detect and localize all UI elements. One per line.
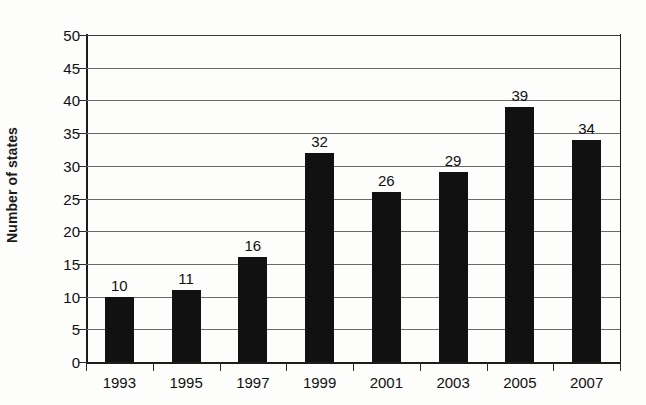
y-axis-tick-label: 0 xyxy=(30,355,80,370)
x-axis-tick-label: 1993 xyxy=(85,374,153,391)
bar-value-label: 11 xyxy=(156,271,216,286)
y-axis-tick-label: 10 xyxy=(30,289,80,304)
bar xyxy=(572,140,601,362)
gridline xyxy=(86,264,620,265)
y-axis-tick-label: 30 xyxy=(30,158,80,173)
y-axis-tick-label: 5 xyxy=(30,322,80,337)
x-axis-tick-mark xyxy=(153,362,154,371)
bar xyxy=(439,172,468,362)
y-axis-tick-mark xyxy=(78,68,86,69)
x-axis-tick-mark xyxy=(353,362,354,371)
x-axis-tick-label: 1995 xyxy=(152,374,220,391)
gridline xyxy=(86,133,620,134)
x-axis-tick-mark xyxy=(220,362,221,371)
gridline xyxy=(86,231,620,232)
y-axis-tick-label: 35 xyxy=(30,126,80,141)
y-axis-tick-mark xyxy=(78,100,86,101)
x-axis-tick-mark xyxy=(286,362,287,371)
x-axis-tick-label: 2001 xyxy=(352,374,420,391)
gridline xyxy=(86,199,620,200)
y-axis-title: Number of states xyxy=(0,0,24,370)
x-axis-tick-mark xyxy=(487,362,488,371)
y-axis-tick-mark xyxy=(78,297,86,298)
bar xyxy=(505,107,534,362)
bar-value-label: 34 xyxy=(557,121,617,136)
gridline xyxy=(86,329,620,330)
y-axis-tick-label: 15 xyxy=(30,256,80,271)
y-axis-tick-label: 50 xyxy=(30,28,80,43)
x-axis-tick-mark xyxy=(86,362,87,371)
y-axis-tick-label: 45 xyxy=(30,60,80,75)
bar xyxy=(238,257,267,362)
x-axis-tick-mark xyxy=(553,362,554,371)
y-axis-tick-mark xyxy=(78,35,86,36)
bar-value-label: 32 xyxy=(290,134,350,149)
gridline xyxy=(86,166,620,167)
right-axis-line xyxy=(620,34,621,364)
y-axis-tick-mark xyxy=(78,362,86,363)
bar xyxy=(372,192,401,362)
bar xyxy=(105,297,134,362)
x-axis-tick-label: 2005 xyxy=(486,374,554,391)
y-axis-tick-mark xyxy=(78,329,86,330)
bar-value-label: 10 xyxy=(89,278,149,293)
x-axis-tick-mark xyxy=(420,362,421,371)
bar-value-label: 16 xyxy=(223,238,283,253)
x-axis-tick-label: 1999 xyxy=(286,374,354,391)
bar-value-label: 29 xyxy=(423,153,483,168)
y-axis-tick-label: 25 xyxy=(30,191,80,206)
bar-value-label: 26 xyxy=(356,173,416,188)
y-axis-tick-mark xyxy=(78,199,86,200)
y-axis-title-label: Number of states xyxy=(4,127,20,243)
x-axis-tick-label: 1997 xyxy=(219,374,287,391)
bar xyxy=(172,290,201,362)
y-axis-tick-label: 40 xyxy=(30,93,80,108)
gridline xyxy=(86,35,620,36)
y-axis-tick-mark xyxy=(78,133,86,134)
x-axis-tick-label: 2003 xyxy=(419,374,487,391)
bar-value-label: 39 xyxy=(490,88,550,103)
gridline xyxy=(86,297,620,298)
y-axis-tick-label: 20 xyxy=(30,224,80,239)
bar-chart: Number of states 05101520253035404550 10… xyxy=(0,0,646,405)
plot-area: 1011163226293934 xyxy=(86,35,620,362)
y-axis-tick-mark xyxy=(78,166,86,167)
gridline xyxy=(86,68,620,69)
x-axis-tick-label: 2007 xyxy=(553,374,621,391)
y-axis-tick-mark xyxy=(78,231,86,232)
y-axis-tick-labels: 05101520253035404550 xyxy=(30,35,80,362)
x-axis-tick-mark xyxy=(620,362,621,371)
bar xyxy=(305,153,334,362)
y-axis-tick-mark xyxy=(78,264,86,265)
